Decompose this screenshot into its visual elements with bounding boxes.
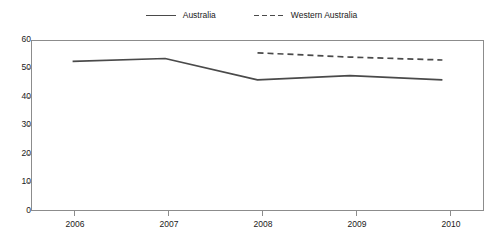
y-tick-label-60: 60 — [9, 35, 31, 44]
x-tick-mark-2008 — [262, 211, 263, 216]
series-line-australia — [73, 59, 443, 80]
y-tick-label-0: 0 — [9, 206, 31, 215]
solid-line-swatch-icon — [146, 11, 176, 20]
legend-label-western-australia: Western Australia — [291, 10, 357, 20]
x-tick-label-2007: 2007 — [139, 219, 199, 229]
y-axis: 60 50 40 30 20 10 0 — [0, 0, 31, 230]
line-chart: Australia Western Australia 60 50 40 30 … — [0, 0, 503, 230]
dashed-line-swatch-icon — [254, 11, 284, 20]
series-line-western-australia — [258, 53, 443, 60]
chart-title-clipped — [0, 0, 503, 3]
chart-legend: Australia Western Australia — [0, 8, 503, 22]
x-tick-mark-2007 — [168, 211, 169, 216]
x-tick-mark-2006 — [74, 211, 75, 216]
legend-item-australia[interactable]: Australia — [146, 10, 216, 20]
series-layer — [31, 40, 484, 211]
legend-item-western-australia[interactable]: Western Australia — [254, 10, 357, 20]
x-tick-label-2009: 2009 — [327, 219, 387, 229]
x-tick-label-2006: 2006 — [45, 219, 105, 229]
x-tick-label-2010: 2010 — [421, 219, 481, 229]
legend-label-australia: Australia — [183, 10, 216, 20]
x-tick-mark-2009 — [356, 211, 357, 216]
x-tick-mark-2010 — [450, 211, 451, 216]
x-tick-label-2008: 2008 — [233, 219, 293, 229]
